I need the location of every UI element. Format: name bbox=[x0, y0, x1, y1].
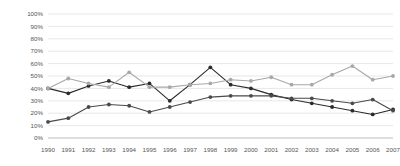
x-axis-tick-labels: 1990199119921993199419951996199719981999… bbox=[41, 146, 400, 153]
x-axis-tick-label: 1991 bbox=[61, 146, 75, 153]
y-axis-tick-label: 70% bbox=[31, 47, 44, 54]
data-point-marker bbox=[148, 85, 152, 89]
y-axis-tick-label: 100% bbox=[27, 10, 43, 17]
series-line bbox=[48, 67, 393, 114]
data-point-marker bbox=[269, 75, 273, 79]
x-axis-tick-label: 2005 bbox=[346, 146, 360, 153]
data-point-marker bbox=[107, 103, 111, 107]
data-point-marker bbox=[310, 101, 314, 105]
y-axis-tick-label: 80% bbox=[31, 35, 44, 42]
data-point-marker bbox=[371, 113, 375, 117]
data-point-marker bbox=[330, 105, 334, 109]
data-point-marker bbox=[127, 70, 131, 74]
y-axis-tick-label: 60% bbox=[31, 60, 44, 67]
data-point-marker bbox=[290, 83, 294, 87]
data-point-marker bbox=[168, 105, 172, 109]
data-point-marker bbox=[351, 101, 355, 105]
x-axis-tick-label: 2000 bbox=[244, 146, 258, 153]
x-axis-tick-label: 2001 bbox=[264, 146, 278, 153]
y-axis-tick-label: 20% bbox=[31, 109, 44, 116]
y-axis-tick-labels: 0%10%20%30%40%50%60%70%80%90%100% bbox=[27, 10, 43, 141]
x-axis-tick-label: 2007 bbox=[386, 146, 400, 153]
data-point-marker bbox=[188, 83, 192, 87]
data-point-marker bbox=[66, 116, 70, 120]
x-axis-tick-label: 1993 bbox=[102, 146, 116, 153]
data-point-marker bbox=[391, 74, 395, 78]
x-axis-tick-label: 2006 bbox=[366, 146, 380, 153]
y-axis-tick-label: 10% bbox=[31, 122, 44, 129]
data-point-marker bbox=[208, 95, 212, 99]
data-point-marker bbox=[148, 82, 152, 86]
data-point-marker bbox=[87, 105, 91, 109]
data-point-marker bbox=[229, 78, 233, 82]
data-point-marker bbox=[351, 109, 355, 113]
data-point-marker bbox=[391, 109, 395, 113]
data-point-marker bbox=[188, 100, 192, 104]
data-point-marker bbox=[148, 110, 152, 114]
data-point-marker bbox=[310, 96, 314, 100]
chart-container: 0%10%20%30%40%50%60%70%80%90%100% 199019… bbox=[0, 0, 400, 166]
y-axis-tick-label: 30% bbox=[31, 97, 44, 104]
line-chart: 0%10%20%30%40%50%60%70%80%90%100% 199019… bbox=[0, 0, 400, 166]
data-point-marker bbox=[330, 73, 334, 77]
x-axis-tick-label: 1995 bbox=[143, 146, 157, 153]
series-series-light bbox=[46, 64, 395, 90]
data-point-marker bbox=[249, 94, 253, 98]
data-point-marker bbox=[371, 78, 375, 82]
data-point-marker bbox=[371, 98, 375, 102]
data-point-marker bbox=[229, 83, 233, 87]
data-point-marker bbox=[290, 96, 294, 100]
x-axis-tick-label: 2003 bbox=[305, 146, 319, 153]
y-axis-tick-label: 0% bbox=[34, 134, 43, 141]
x-axis-tick-label: 1999 bbox=[224, 146, 238, 153]
y-axis-tick-label: 50% bbox=[31, 72, 44, 79]
data-point-marker bbox=[208, 65, 212, 69]
data-point-marker bbox=[107, 85, 111, 89]
data-point-marker bbox=[330, 99, 334, 103]
data-point-marker bbox=[127, 104, 131, 108]
data-point-marker bbox=[249, 79, 253, 83]
data-point-marker bbox=[66, 77, 70, 81]
x-axis-tick-label: 1994 bbox=[122, 146, 136, 153]
series-series-dark bbox=[46, 65, 395, 116]
data-point-marker bbox=[66, 91, 70, 95]
data-point-marker bbox=[46, 87, 50, 91]
x-axis-tick-label: 1996 bbox=[163, 146, 177, 153]
data-point-marker bbox=[46, 120, 50, 124]
data-point-marker bbox=[310, 83, 314, 87]
x-axis-tick-label: 1990 bbox=[41, 146, 55, 153]
data-point-marker bbox=[127, 85, 131, 89]
data-point-marker bbox=[87, 82, 91, 86]
x-axis-tick-label: 1992 bbox=[82, 146, 96, 153]
x-axis-tick-label: 2004 bbox=[325, 146, 339, 153]
x-axis-tick-label: 1997 bbox=[183, 146, 197, 153]
data-point-marker bbox=[107, 79, 111, 83]
data-point-marker bbox=[229, 94, 233, 98]
data-point-marker bbox=[351, 64, 355, 68]
data-point-marker bbox=[208, 82, 212, 86]
x-axis-tick-label: 1998 bbox=[203, 146, 217, 153]
series-line bbox=[48, 66, 393, 88]
data-point-marker bbox=[168, 85, 172, 89]
data-series-group bbox=[46, 64, 395, 124]
data-point-marker bbox=[249, 87, 253, 91]
x-axis-tick-label: 2002 bbox=[285, 146, 299, 153]
y-axis-tick-label: 40% bbox=[31, 85, 44, 92]
data-point-marker bbox=[269, 94, 273, 98]
data-point-marker bbox=[168, 99, 172, 103]
y-axis-tick-label: 90% bbox=[31, 23, 44, 30]
